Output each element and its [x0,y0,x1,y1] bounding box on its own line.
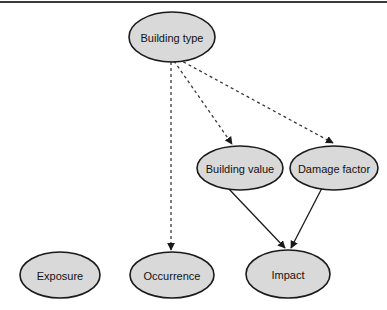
node-building_value[interactable]: Building value [197,146,283,190]
influence-diagram-graph: Building typeBuilding valueDamage factor… [0,0,387,310]
node-impact[interactable]: Impact [246,250,330,298]
diagram-canvas: Building typeBuilding valueDamage factor… [0,0,387,310]
edge-building_type-to-building_value [174,61,232,144]
node-label-building_value: Building value [206,163,275,175]
edge-damage_factor-to-impact [291,188,322,248]
nodes-layer: Building typeBuilding valueDamage factor… [20,12,378,298]
node-building_type[interactable]: Building type [129,12,215,62]
node-damage_factor[interactable]: Damage factor [290,146,378,190]
node-label-exposure: Exposure [37,270,83,282]
node-label-occurrence: Occurrence [144,270,201,282]
edge-building_value-to-impact [228,188,285,248]
node-occurrence[interactable]: Occurrence [130,252,214,298]
node-exposure[interactable]: Exposure [20,252,100,298]
node-label-building_type: Building type [141,32,204,44]
node-label-damage_factor: Damage factor [298,163,370,175]
node-label-impact: Impact [271,269,304,281]
